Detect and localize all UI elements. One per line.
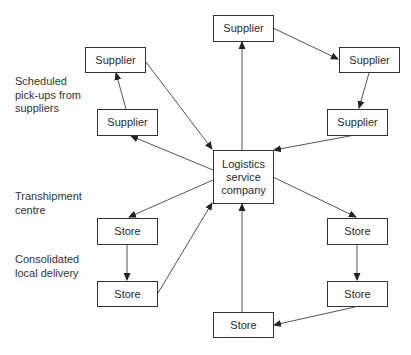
node-label: company: [221, 184, 266, 197]
edge-center-to-sup-midleft: [131, 136, 213, 170]
label-line: centre: [15, 204, 82, 218]
label-transhipment-centre: Transhipment centre: [15, 190, 82, 217]
edge-store-right2-to-store-bottom: [274, 307, 355, 325]
label-line: local delivery: [15, 267, 79, 281]
node-supplier-midleft: Supplier: [97, 109, 158, 136]
node-label: Logistics: [222, 158, 265, 171]
node-supplier-topright: Supplier: [339, 47, 400, 73]
node-label: Supplier: [95, 54, 135, 67]
label-line: Scheduled: [15, 75, 81, 89]
node-label: Store: [344, 225, 370, 238]
edge-sup-top-to-sup-topright: [273, 28, 338, 59]
node-store-bottom: Store: [213, 312, 274, 338]
label-line: Transhipment: [15, 190, 82, 204]
label-line: pick-ups from: [15, 89, 81, 103]
label-scheduled-pickups: Scheduled pick-ups from suppliers: [15, 75, 81, 116]
edge-center-to-store-left1: [129, 180, 213, 217]
node-label: Store: [114, 288, 140, 301]
node-label: service: [226, 171, 261, 184]
node-supplier-midright: Supplier: [327, 109, 388, 136]
label-consolidated-local-delivery: Consolidated local delivery: [15, 253, 79, 280]
edge-center-to-store-right1: [273, 177, 356, 217]
node-label: Store: [344, 288, 370, 301]
logistics-consolidation-diagram: Scheduled pick-ups from suppliers Transh…: [0, 0, 411, 355]
edge-sup-midleft-to-sup-topleft: [116, 73, 126, 109]
node-supplier-top: Supplier: [213, 15, 274, 42]
edge-sup-midright-to-center: [274, 135, 355, 150]
node-store-left2: Store: [97, 281, 158, 307]
node-supplier-topleft: Supplier: [85, 47, 146, 73]
edge-store-left2-to-center: [158, 203, 212, 293]
node-label: Supplier: [337, 116, 377, 129]
label-line: suppliers: [15, 102, 81, 116]
node-label: Supplier: [349, 54, 389, 67]
label-line: Consolidated: [15, 253, 79, 267]
node-label: Store: [230, 319, 256, 332]
node-store-right2: Store: [327, 281, 388, 307]
node-label: Store: [114, 225, 140, 238]
node-label: Supplier: [223, 22, 263, 35]
node-store-right1: Store: [327, 218, 388, 245]
node-logistics-service-company: Logistics service company: [213, 150, 274, 204]
node-store-left1: Store: [97, 218, 158, 245]
edge-sup-topright-to-sup-midright: [359, 73, 369, 108]
node-label: Supplier: [107, 116, 147, 129]
